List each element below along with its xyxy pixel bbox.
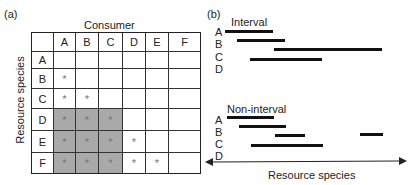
matrix-cell [169,89,200,109]
matrix-cell-shaded: * [54,153,76,173]
resource-species-axis-title: Resource species [14,50,26,150]
matrix-cell [76,69,99,89]
matrix-cell [146,69,169,89]
interval-row-label: C [215,51,223,63]
interval-bar-b [237,39,285,42]
interval-title: Interval [231,16,267,28]
interval-row-label: A [215,26,222,38]
matrix-cell [146,89,169,109]
interval-bar-b2 [274,48,382,51]
non-interval-title: Non-interval [227,103,286,115]
panel-b-label: (b) [207,8,220,20]
panel-a-label: (a) [4,8,17,20]
matrix-cell [169,131,200,153]
col-header: C [99,33,123,52]
row-header: B [32,69,54,89]
matrix-cell: * [123,153,146,173]
matrix-cell [169,52,200,69]
row-header: C [32,89,54,109]
matrix-cell [169,109,200,131]
matrix-cell-shaded: * [76,153,99,173]
resource-axis-double-arrow-icon [205,156,407,168]
non-interval-bar-a [227,116,274,119]
row-header: A [32,52,54,69]
matrix-cell-shaded: * [99,153,123,173]
matrix-cell: * [54,89,76,109]
food-web-matrix: A B C D E F A B * C * * D * * * E * * * … [31,32,201,174]
matrix-cell [123,89,146,109]
matrix-cell [169,69,200,89]
interval-row-label: D [215,63,223,75]
non-interval-bar-b2-segment1 [275,134,305,137]
matrix-cell: * [123,131,146,153]
corner-cell [32,33,54,52]
non-interval-bar-c [251,144,323,147]
matrix-cell: * [54,69,76,89]
row-header: E [32,131,54,153]
matrix-cell: * [76,89,99,109]
matrix-cell [146,131,169,153]
non-interval-row-label: B [215,126,222,138]
row-header: F [32,153,54,173]
matrix-cell-shaded: * [54,109,76,131]
matrix-cell [123,52,146,69]
matrix-cell [99,69,123,89]
matrix-cell [146,52,169,69]
matrix-cell [99,52,123,69]
non-interval-bar-b2-segment2 [360,133,383,136]
interval-bar-c [250,58,322,61]
col-header: D [123,33,146,52]
col-header: A [54,33,76,52]
matrix-cell-shaded: * [76,131,99,153]
row-header: D [32,109,54,131]
non-interval-bar-b [239,125,286,128]
matrix-cell: * [146,153,169,173]
matrix-cell [123,109,146,131]
matrix-cell [123,69,146,89]
col-header: F [169,33,200,52]
consumer-axis-title: Consumer [84,19,135,31]
matrix-cell [146,109,169,131]
matrix-cell [76,52,99,69]
matrix-cell-shaded: * [76,109,99,131]
non-interval-row-label: C [215,138,223,150]
non-interval-row-label: A [215,114,222,126]
matrix-cell-shaded: * [99,131,123,153]
interval-row-label: B [215,38,222,50]
matrix-cell [99,89,123,109]
matrix-cell [169,153,200,173]
matrix-cell [54,52,76,69]
resource-axis-label: Resource species [268,169,355,181]
matrix-cell-shaded: * [54,131,76,153]
matrix-cell-shaded: * [99,109,123,131]
col-header: B [76,33,99,52]
interval-bar-a [225,30,273,33]
col-header: E [146,33,169,52]
